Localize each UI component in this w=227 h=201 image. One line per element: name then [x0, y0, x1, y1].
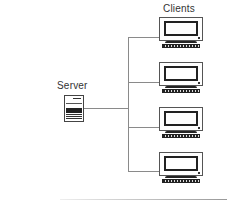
bottom-rule — [60, 199, 227, 200]
screen — [164, 111, 198, 126]
client-computer-1 — [159, 17, 203, 47]
monitor-icon — [159, 107, 203, 131]
keyboard-icon — [162, 179, 200, 183]
monitor-icon — [159, 152, 203, 176]
keyboard-icon — [162, 44, 200, 48]
screen — [164, 21, 198, 36]
server-drive-rows — [66, 114, 82, 120]
client-computer-4 — [159, 152, 203, 182]
monitor-stand — [165, 86, 197, 88]
keyboard-icon — [162, 89, 200, 93]
power-led — [198, 37, 200, 39]
client-computer-3 — [159, 107, 203, 137]
keyboard-icon — [162, 134, 200, 138]
branch-line-1 — [128, 37, 159, 38]
branch-line-3 — [128, 127, 159, 128]
clients-label: Clients — [163, 3, 195, 14]
server-label: Server — [57, 80, 88, 91]
monitor-icon — [159, 62, 203, 86]
client-computer-2 — [159, 62, 203, 92]
server-link-line — [84, 108, 128, 109]
power-led — [198, 127, 200, 129]
power-led — [198, 172, 200, 174]
server-icon — [64, 95, 84, 122]
monitor-stand — [165, 131, 197, 133]
monitor-icon — [159, 17, 203, 41]
screen — [164, 156, 198, 171]
screen — [164, 66, 198, 81]
trunk-line — [128, 37, 129, 171]
server-top-bay — [66, 97, 82, 104]
monitor-stand — [165, 176, 197, 178]
power-led — [198, 82, 200, 84]
monitor-stand — [165, 41, 197, 43]
server-panel — [66, 108, 82, 113]
branch-line-2 — [128, 82, 159, 83]
branch-line-4 — [128, 171, 159, 172]
